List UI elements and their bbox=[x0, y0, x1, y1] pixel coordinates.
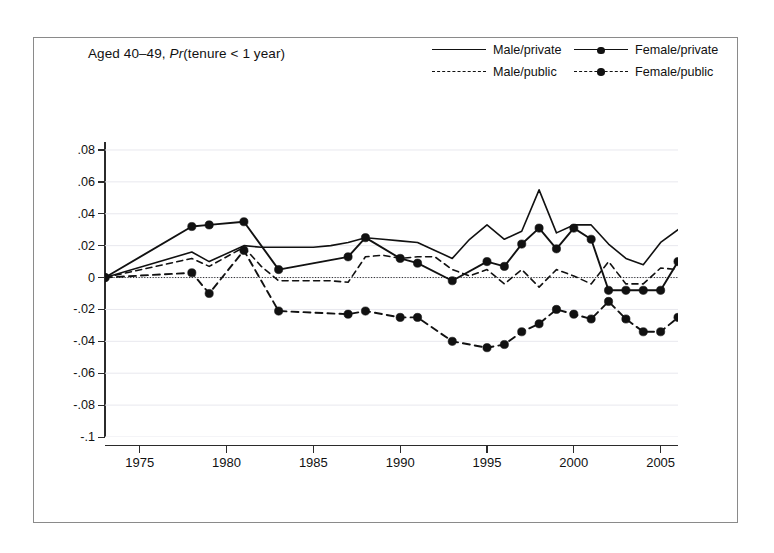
data-point bbox=[275, 265, 283, 273]
data-point bbox=[570, 310, 578, 318]
series-line-male-private bbox=[105, 190, 678, 278]
data-point bbox=[674, 257, 678, 265]
data-point bbox=[205, 289, 213, 297]
x-axis-tick-label: 1980 bbox=[197, 455, 257, 470]
data-point bbox=[657, 328, 665, 336]
data-point bbox=[518, 328, 526, 336]
x-axis-tick-mark bbox=[139, 446, 140, 453]
legend-key-dashed-marker-icon bbox=[574, 66, 628, 78]
legend-label-female-private: Female/private bbox=[635, 44, 718, 57]
chart-title: Aged 40–49, Pr(tenure < 1 year) bbox=[88, 46, 285, 61]
data-point bbox=[344, 253, 352, 261]
data-point bbox=[188, 269, 196, 277]
x-axis-tick-label: 1990 bbox=[370, 455, 430, 470]
legend: Male/private Female/private Male/public … bbox=[432, 44, 722, 87]
x-axis-tick-mark bbox=[313, 446, 314, 453]
data-point bbox=[622, 286, 630, 294]
data-point bbox=[657, 286, 665, 294]
data-point bbox=[361, 234, 369, 242]
legend-label-male-private: Male/private bbox=[493, 44, 562, 57]
y-axis-tick-label: 0 bbox=[39, 271, 95, 285]
data-point bbox=[500, 262, 508, 270]
legend-key-solid-line-icon bbox=[432, 44, 486, 56]
data-point bbox=[535, 320, 543, 328]
y-axis-tick-label: .04 bbox=[39, 207, 95, 221]
chart-title-suffix: (tenure < 1 year) bbox=[183, 46, 285, 61]
data-point bbox=[483, 344, 491, 352]
chart-title-italic: Pr bbox=[170, 46, 184, 61]
data-point bbox=[205, 221, 213, 229]
data-point bbox=[344, 310, 352, 318]
x-axis-tick-mark bbox=[486, 446, 487, 453]
data-point bbox=[552, 245, 560, 253]
legend-item-male-private: Male/private bbox=[432, 44, 574, 57]
y-axis-tick-label: -.02 bbox=[39, 302, 95, 316]
legend-item-male-public: Male/public bbox=[432, 66, 574, 79]
data-point bbox=[604, 297, 612, 305]
data-point bbox=[396, 313, 404, 321]
chart-title-prefix: Aged 40–49, bbox=[88, 46, 170, 61]
y-axis-tick-label: .08 bbox=[39, 143, 95, 157]
data-point bbox=[448, 277, 456, 285]
x-axis-tick-mark bbox=[660, 446, 661, 453]
data-point bbox=[587, 235, 595, 243]
data-point bbox=[413, 313, 421, 321]
data-point bbox=[570, 224, 578, 232]
x-axis-tick-label: 1975 bbox=[110, 455, 170, 470]
data-point bbox=[275, 307, 283, 315]
legend-item-female-public: Female/public bbox=[574, 66, 713, 79]
y-axis-tick-label: .02 bbox=[39, 239, 95, 253]
data-point bbox=[188, 222, 196, 230]
data-point bbox=[604, 286, 612, 294]
data-point bbox=[448, 337, 456, 345]
data-point bbox=[240, 218, 248, 226]
y-axis-tick-label: -.06 bbox=[39, 366, 95, 380]
plot-svg bbox=[105, 142, 678, 437]
x-axis-tick-mark bbox=[400, 446, 401, 453]
y-axis-tick-label: -.08 bbox=[39, 398, 95, 412]
legend-item-female-private: Female/private bbox=[574, 44, 718, 57]
data-point bbox=[639, 328, 647, 336]
data-point bbox=[639, 286, 647, 294]
x-axis-line bbox=[105, 445, 678, 446]
data-point bbox=[518, 240, 526, 248]
legend-key-dashed-line-icon bbox=[432, 66, 486, 78]
x-axis-tick-label: 1985 bbox=[283, 455, 343, 470]
data-point bbox=[500, 340, 508, 348]
y-axis-tick-label: .06 bbox=[39, 175, 95, 189]
x-axis-tick-mark bbox=[226, 446, 227, 453]
legend-label-female-public: Female/public bbox=[635, 66, 713, 79]
data-point bbox=[483, 257, 491, 265]
data-point bbox=[587, 315, 595, 323]
data-point bbox=[413, 259, 421, 267]
legend-key-solid-marker-icon bbox=[574, 44, 628, 56]
data-point bbox=[361, 307, 369, 315]
data-point bbox=[552, 305, 560, 313]
y-axis-tick-label: -.1 bbox=[39, 430, 95, 444]
x-axis-tick-mark bbox=[573, 446, 574, 453]
y-axis-tick-label: -.04 bbox=[39, 334, 95, 348]
legend-label-male-public: Male/public bbox=[493, 66, 557, 79]
legend-row-1: Male/private Female/private bbox=[432, 44, 722, 57]
plot-area bbox=[105, 142, 678, 437]
x-axis-tick-label: 2005 bbox=[631, 455, 691, 470]
data-point bbox=[622, 315, 630, 323]
figure-canvas: Aged 40–49, Pr(tenure < 1 year) Male/pri… bbox=[0, 0, 774, 553]
legend-row-2: Male/public Female/public bbox=[432, 66, 722, 79]
series-line-female-private bbox=[105, 222, 678, 291]
x-axis-tick-label: 2000 bbox=[544, 455, 604, 470]
data-point bbox=[240, 246, 248, 254]
x-axis-tick-label: 1995 bbox=[457, 455, 517, 470]
data-point bbox=[535, 224, 543, 232]
series-line-female-public bbox=[105, 250, 678, 347]
